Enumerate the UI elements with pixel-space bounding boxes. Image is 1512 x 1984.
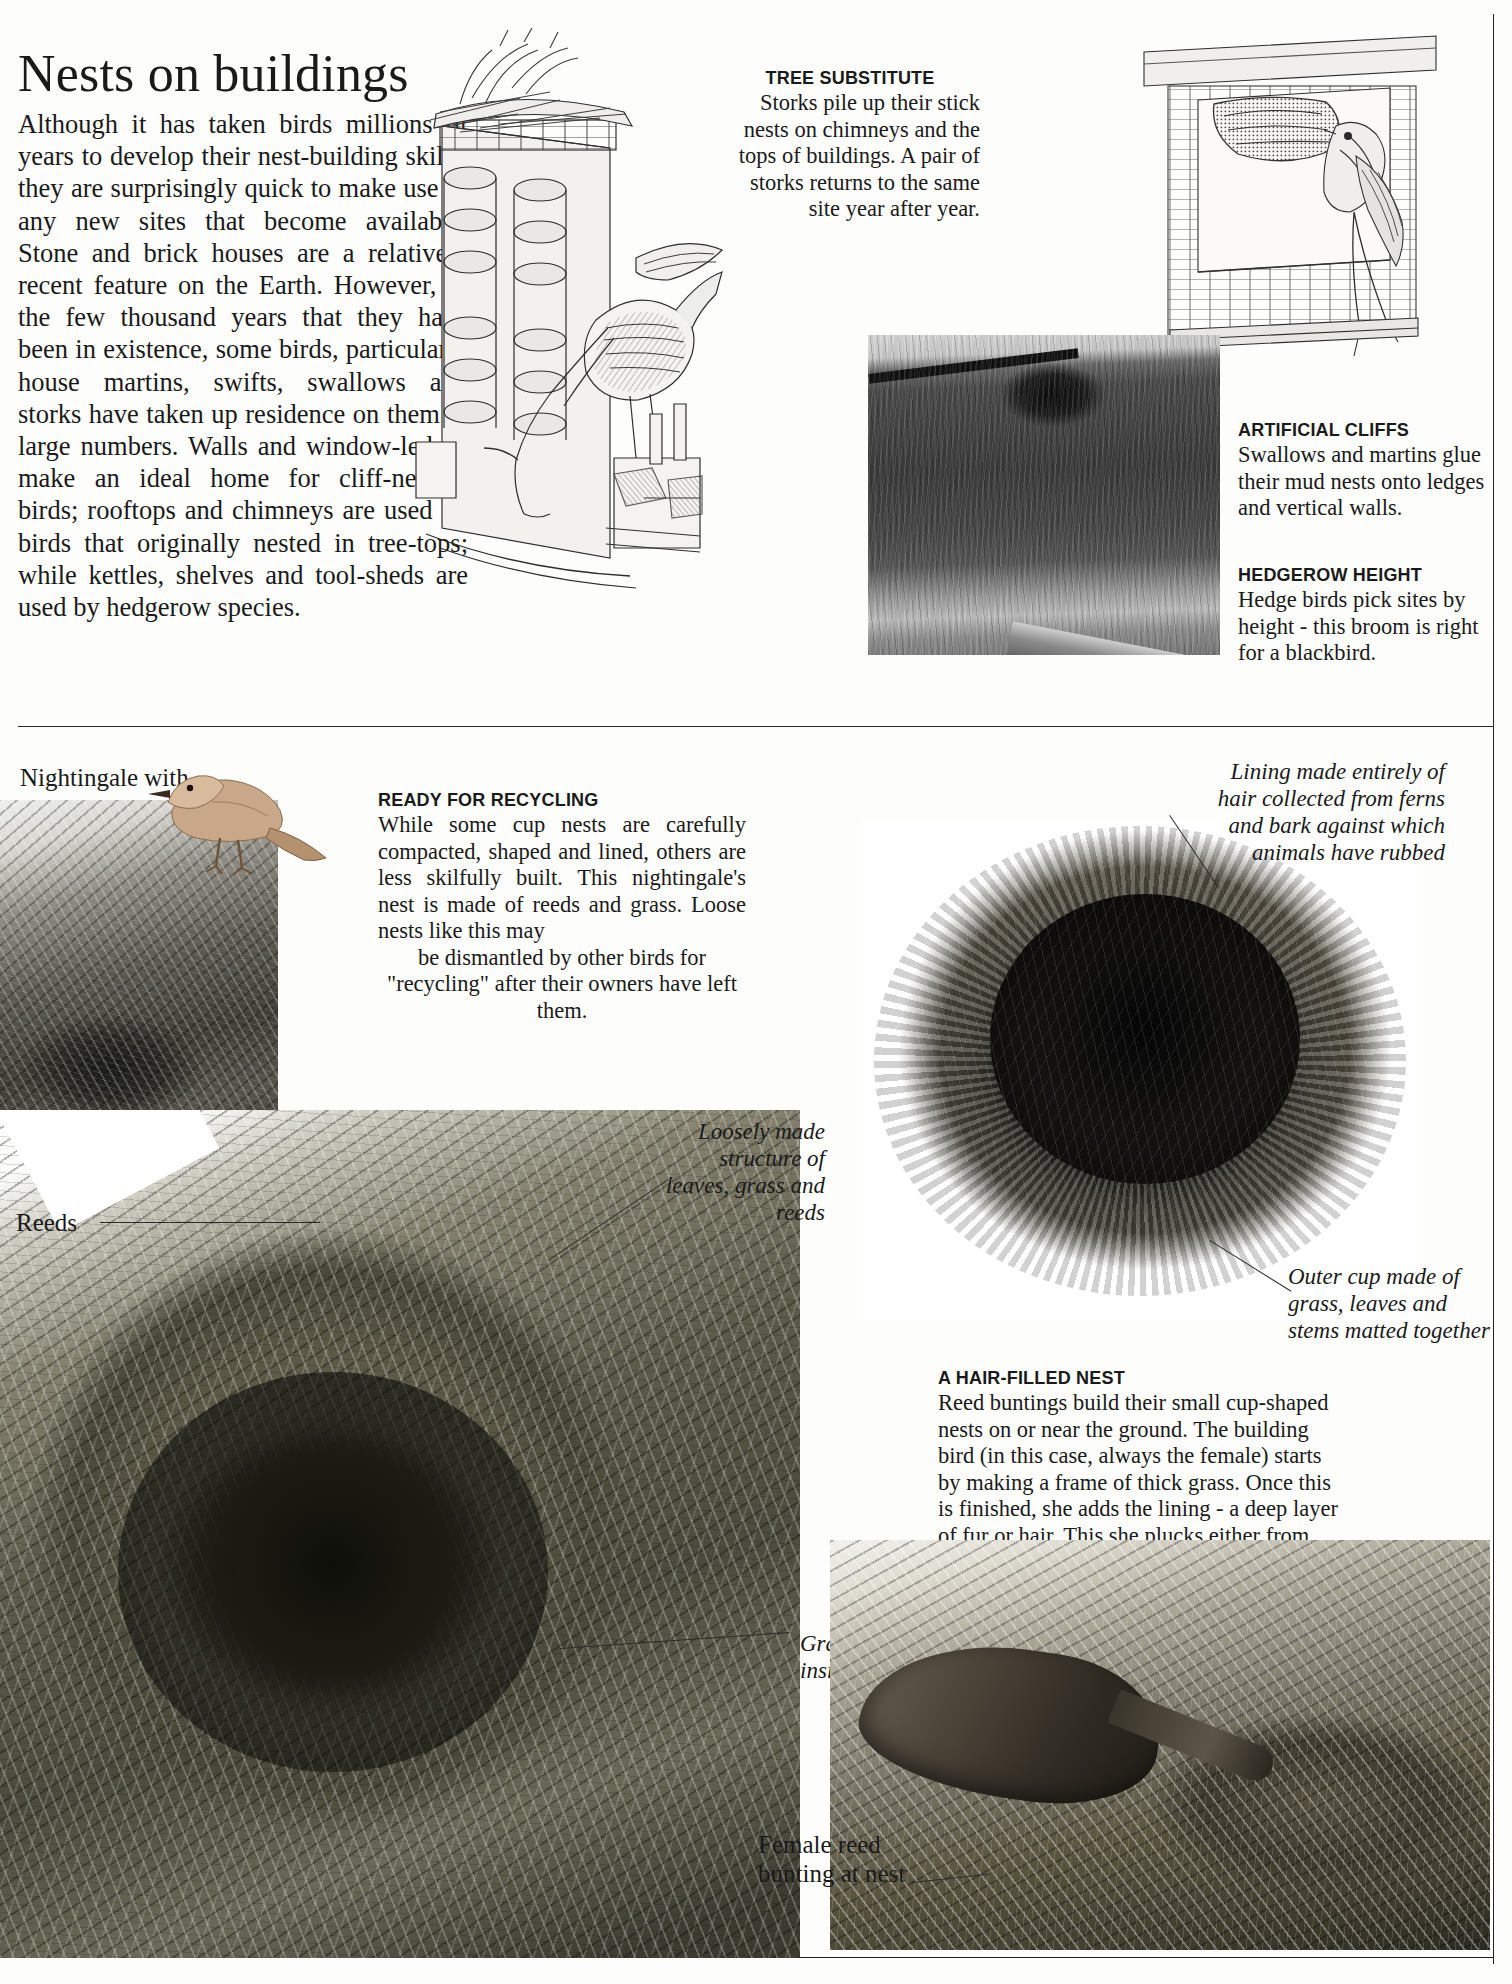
caption-tree-substitute: TREE SUBSTITUTE Storks pile up their sti…: [720, 68, 980, 223]
broom-bristle-texture: [868, 335, 1220, 655]
caption-body-tail: be dismantled by other birds for "recycl…: [378, 945, 746, 1025]
nest-cup-hollow: [118, 1372, 548, 1772]
blackbird-nest-in-broom-photo: [868, 335, 1220, 655]
nest-wisp-texture: [860, 820, 1420, 1320]
caption-artificial-cliffs: ARTIFICIAL CLIFFS Swallows and martins g…: [1238, 420, 1496, 522]
caption-hedgerow-height: HEDGEROW HEIGHT Hedge birds pick sites b…: [1238, 565, 1496, 667]
annotation-lining-hair: Lining made entirely of hair collected f…: [1195, 758, 1445, 866]
book-page: Nests on buildings Although it has taken…: [0, 0, 1512, 1984]
caption-heading: ARTIFICIAL CLIFFS: [1238, 420, 1496, 441]
nightingale-bird-illustration: [120, 740, 330, 880]
leader-line-reeds: [100, 1222, 320, 1223]
caption-heading: TREE SUBSTITUTE: [720, 68, 980, 89]
annotation-outer-cup: Outer cup made of grass, leaves and stem…: [1288, 1263, 1503, 1344]
caption-heading: A HAIR-FILLED NEST: [938, 1368, 1338, 1389]
section-divider: [18, 726, 1494, 727]
reed-bunting-cup-nest-photo: [860, 820, 1420, 1320]
stork-chimney-illustration: [400, 28, 730, 668]
caption-body: While some cup nests are carefully compa…: [378, 812, 746, 945]
page-title: Nests on buildings: [18, 44, 409, 103]
caption-heading: READY FOR RECYCLING: [378, 790, 746, 811]
label-female-reed-bunting: Female reed bunting at nest: [758, 1830, 918, 1888]
caption-body: Swallows and martins glue their mud nest…: [1238, 442, 1496, 522]
label-reeds: Reeds: [16, 1208, 77, 1237]
caption-body: Storks pile up their stick nests on chim…: [720, 90, 980, 223]
annotation-loosely-made: Loosely made structure of leaves, grass …: [655, 1118, 825, 1226]
loose-reed-leaf-nest-photo: [0, 1110, 800, 1958]
caption-ready-for-recycling: READY FOR RECYCLING While some cup nests…: [378, 790, 746, 1024]
caption-body: Hedge birds pick sites by height - this …: [1238, 587, 1496, 667]
caption-heading: HEDGEROW HEIGHT: [1238, 565, 1496, 586]
page-border-right: [1493, 14, 1494, 1964]
female-reed-bunting-at-nest-photo: [830, 1540, 1490, 1950]
